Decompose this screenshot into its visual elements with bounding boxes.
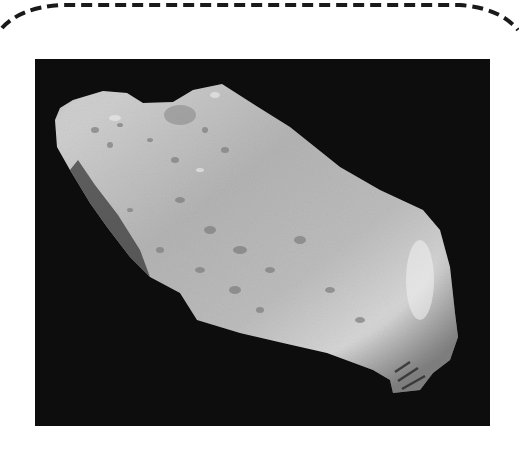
asteroid-illustration — [35, 59, 490, 426]
asteroid-photo: Grayscale photograph of an elongated, cr… — [35, 59, 490, 426]
